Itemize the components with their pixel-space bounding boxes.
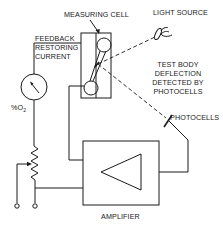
cell-to-amplifier-wire bbox=[69, 86, 84, 160]
photocell-to-amplifier-wire bbox=[159, 120, 188, 172]
measuring-cell-label: MEASURING CELL bbox=[64, 10, 129, 19]
amplifier-triangle-icon bbox=[101, 154, 141, 190]
measuring-cell-arrow-icon bbox=[90, 20, 100, 34]
deflection-label-line4: PHOTOCELLS bbox=[153, 87, 202, 96]
photocells-label: PHOTOCELLS bbox=[170, 113, 219, 122]
potentiometer-icon bbox=[31, 146, 38, 180]
light-source-icon bbox=[153, 27, 172, 40]
deflection-label-line3: DETECTED BY bbox=[152, 78, 204, 87]
light-source-label: LIGHT SOURCE bbox=[153, 8, 208, 17]
amplifier-label: AMPLIFIER bbox=[101, 212, 140, 221]
meter-icon bbox=[21, 74, 47, 100]
feedback-label-line3: CURRENT bbox=[35, 52, 71, 61]
feedback-label-line2: RESTORING bbox=[35, 43, 79, 52]
amplifier bbox=[83, 141, 159, 205]
meter-label: %O2 bbox=[11, 103, 26, 113]
potentiometer-wiper-wire bbox=[17, 164, 29, 203]
oxygen-analyzer-diagram: MEASURING CELL LIGHT SOURCE TEST BODY DE… bbox=[0, 0, 223, 226]
feedback-label-line1: FEEDBACK bbox=[35, 34, 75, 43]
upper-test-sphere-icon bbox=[97, 38, 111, 52]
output-terminal-right bbox=[33, 204, 37, 208]
wiper-arrow-icon bbox=[27, 162, 32, 166]
deflection-label-line1: TEST BODY bbox=[157, 60, 199, 69]
light-beam-incident bbox=[98, 37, 155, 64]
deflection-label-line2: DEFLECTION bbox=[155, 69, 202, 78]
measuring-cell bbox=[81, 33, 111, 98]
output-terminal-left bbox=[15, 204, 19, 208]
